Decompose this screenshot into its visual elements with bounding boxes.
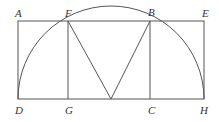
segment-F-center [68,21,111,99]
label-H: H [199,104,209,116]
segment-B-center [111,21,150,99]
semicircle-arc [18,6,204,99]
geometry-diagram: A F B E D G C H [0,0,219,122]
label-C: C [148,104,156,116]
label-F: F [64,7,72,19]
label-G: G [65,104,73,116]
label-E: E [201,7,209,19]
label-D: D [14,104,23,116]
label-B: B [148,6,155,18]
label-A: A [14,7,22,19]
